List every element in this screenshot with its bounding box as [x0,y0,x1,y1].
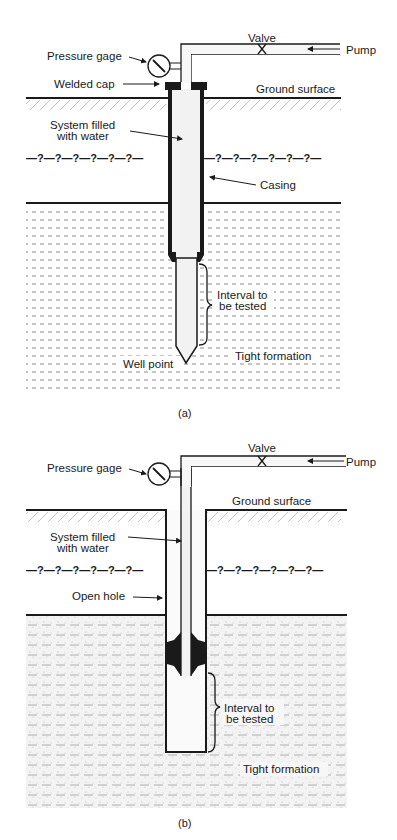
soil-hatch [206,100,341,110]
soil-hatch [26,100,166,110]
figure-b-caption: (b) [178,817,191,829]
interval-label: Interval to be tested [217,289,271,312]
system-filled-label: System filled with water [50,119,118,142]
valve-label: Valve [248,442,276,454]
pressure-gage-icon [148,55,170,77]
figure-a-caption: (a) [178,407,191,419]
welded-cap-right [191,82,207,90]
system-filled-label: System filled with water [50,531,118,554]
welded-cap-label: Welded cap [54,78,115,90]
soil-hatch [206,512,341,522]
well-point [176,258,197,363]
unknown-boundary-right: —?—?—?—?—?—?— [206,564,323,576]
unknown-boundary-right: —?—?—?—?—?—?— [204,152,321,164]
casing-label: Casing [260,179,296,191]
ground-surface-label: Ground surface [232,495,311,507]
ground-surface-label: Ground surface [256,83,335,95]
pressure-gage-label: Pressure gage [47,50,122,62]
valve-label: Valve [248,32,276,44]
pressure-gage-label: Pressure gage [47,462,122,474]
figure-a: Valve Pump Pressure gage Welded cap Grou… [26,32,376,419]
open-hole-label: Open hole [72,590,125,602]
pump-label: Pump [346,44,376,56]
interval-label: Interval to be tested [224,702,278,725]
tight-formation-label: Tight formation [243,763,319,775]
tight-formation-label: Tight formation [235,350,311,362]
soil-hatch [26,512,166,522]
pressure-gage-icon [148,463,170,485]
welded-cap-left [165,82,181,90]
unknown-boundary-left: —?—?—?—?—?—?— [26,152,143,164]
unknown-boundary-left: —?—?—?—?—?—?— [26,564,143,576]
well-point-label: Well point [123,358,174,370]
pump-label: Pump [346,456,376,468]
figure-b: Valve Pump Pressure gage Ground surface … [26,442,376,829]
well-test-diagram: Valve Pump Pressure gage Welded cap Grou… [0,0,397,840]
